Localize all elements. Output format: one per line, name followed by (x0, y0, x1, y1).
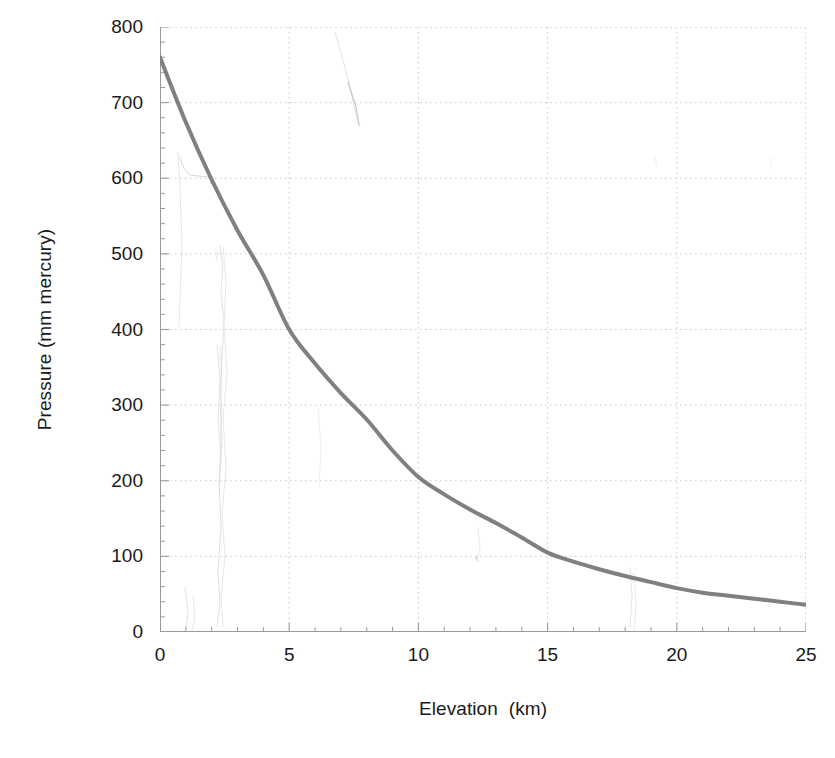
tick-mark-layer (160, 27, 806, 632)
y-tick-label: 500 (88, 243, 143, 265)
y-tick-label: 100 (88, 545, 143, 567)
data-curve-0 (160, 57, 806, 605)
gridline-layer (160, 27, 806, 632)
axis-frame (160, 27, 806, 632)
x-tick-label: 5 (259, 644, 319, 666)
plot-svg (160, 27, 806, 632)
y-tick-label: 400 (88, 319, 143, 341)
y-tick-label: 600 (88, 167, 143, 189)
x-axis-title: Elevation (km) (160, 698, 806, 720)
y-tick-label: 200 (88, 470, 143, 492)
x-tick-label: 25 (776, 644, 835, 666)
x-tick-label-wrap: 15 (518, 644, 578, 668)
y-axis-title: Pressure (mm mercury) (30, 27, 60, 632)
x-tick-label: 20 (647, 644, 707, 666)
x-tick-label: 15 (518, 644, 578, 666)
x-tick-label-wrap: 25 (776, 644, 835, 668)
x-tick-label: 10 (388, 644, 448, 666)
data-series-layer (160, 57, 806, 605)
y-tick-label: 0 (88, 621, 143, 643)
x-tick-label-wrap: 0 (130, 644, 190, 668)
x-tick-label-wrap: 10 (388, 644, 448, 668)
plot-area (160, 27, 806, 632)
figure-canvas: Pressure (mm mercury) Elevation (km) 010… (0, 0, 835, 758)
x-tick-label-wrap: 20 (647, 644, 707, 668)
x-tick-label: 0 (130, 644, 190, 666)
scan-artifact-layer (178, 32, 772, 631)
x-tick-label-wrap: 5 (259, 644, 319, 668)
plot-border (161, 28, 806, 632)
y-tick-label: 700 (88, 92, 143, 114)
y-tick-label: 800 (88, 16, 143, 38)
y-tick-label: 300 (88, 394, 143, 416)
